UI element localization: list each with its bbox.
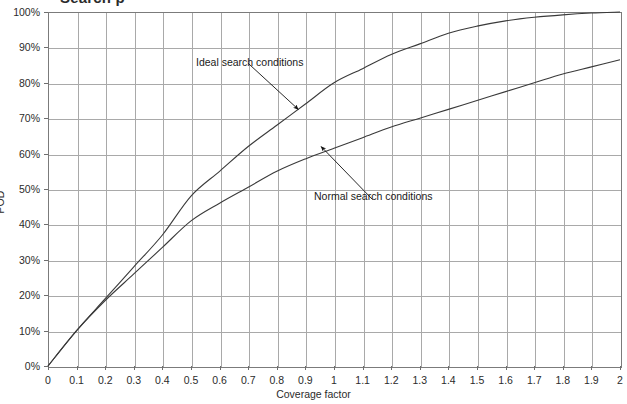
curve-normal-search-conditions	[48, 60, 620, 366]
curve-ideal-search-conditions	[48, 12, 620, 366]
curve-layer	[0, 0, 627, 404]
annotation-normal-search-conditions: Normal search conditions	[314, 190, 432, 202]
arrow-ideal-search-conditions	[248, 63, 298, 109]
pod-coverage-factor-chart: Search p 0%10%20%30%40%50%60%70%80%90%10…	[0, 0, 627, 404]
annotation-ideal-search-conditions: Ideal search conditions	[196, 56, 303, 68]
